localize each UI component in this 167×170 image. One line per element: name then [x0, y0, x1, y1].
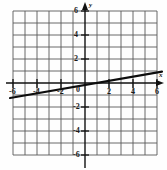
y-tick-label-neg2: -2 — [73, 103, 80, 111]
coordinate-plane-svg — [0, 0, 167, 170]
x-tick-label-4: 4 — [131, 88, 135, 96]
y-tick-label-0: 0 — [76, 86, 80, 94]
x-tick-label-neg2: -2 — [57, 88, 64, 96]
y-tick-label-2: 2 — [74, 55, 78, 63]
y-axis-arrow — [82, 2, 88, 10]
y-tick-label-neg4: -4 — [73, 127, 80, 135]
y-tick-label-4: 4 — [74, 31, 78, 39]
x-axis-name-label: x — [159, 71, 163, 79]
y-tick-label-neg6: -6 — [73, 151, 80, 159]
x-tick-label-2: 2 — [107, 88, 111, 96]
x-tick-label-neg4: -4 — [33, 88, 40, 96]
y-tick-label-6: 6 — [74, 7, 78, 15]
coordinate-plane-figure: 6 4 2 0 -2 -4 -6 -6 -4 -2 2 4 6 y x — [0, 0, 167, 170]
y-axis-name-label: y — [89, 1, 92, 9]
x-tick-label-6: 6 — [155, 88, 159, 96]
x-tick-label-neg6: -6 — [9, 88, 16, 96]
